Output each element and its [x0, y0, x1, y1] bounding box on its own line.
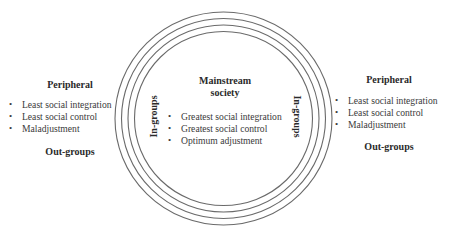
list-item: Least social control — [9, 111, 112, 123]
center-list: Greatest social integration Greatest soc… — [168, 111, 282, 146]
list-item: Greatest social integration — [168, 111, 282, 123]
list-item: Maladjustment — [9, 123, 112, 135]
ring-label-left: In-groups — [148, 90, 159, 144]
right-peripheral-list: Least social integration Least social co… — [335, 95, 438, 130]
ring-label-right: In-groups — [292, 90, 303, 144]
list-item: Least social control — [335, 107, 438, 119]
right-outgroups-label: Out-groups — [349, 141, 429, 152]
left-peripheral-list: Least social integration Least social co… — [9, 99, 112, 134]
list-item: Greatest social control — [168, 123, 282, 135]
list-item: Least social integration — [9, 99, 112, 111]
list-item: Maladjustment — [335, 119, 438, 131]
center-title-line2: society — [175, 87, 275, 98]
center-title-line1: Mainstream — [175, 75, 275, 86]
list-item: Optimum adjustment — [168, 135, 282, 147]
left-outgroups-label: Out-groups — [30, 146, 110, 157]
list-item: Least social integration — [335, 95, 438, 107]
right-peripheral-title: Peripheral — [349, 74, 429, 85]
left-peripheral-title: Peripheral — [30, 79, 110, 90]
